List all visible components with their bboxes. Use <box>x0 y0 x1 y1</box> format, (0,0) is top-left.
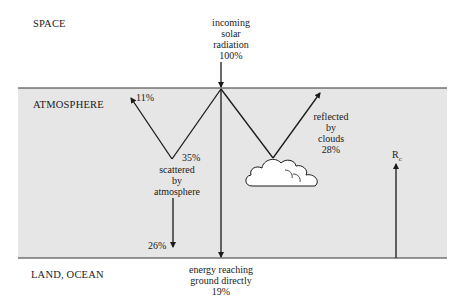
reflected-value: 28% <box>314 144 349 155</box>
reflected-line3: clouds <box>314 133 349 144</box>
atmosphere-band <box>18 88 447 258</box>
scattered-line2: by <box>154 175 200 186</box>
incoming-line3: radiation <box>212 39 250 50</box>
land-ocean-label: LAND, OCEAN <box>31 269 104 280</box>
scattered-down-value: 26% <box>148 240 166 251</box>
reflected-line2: by <box>314 122 349 133</box>
scattered-line3: atmosphere <box>154 186 200 197</box>
reradiated-symbol: R <box>392 149 399 160</box>
scattered-label: scattered by atmosphere <box>154 164 200 197</box>
incoming-line1: incoming <box>212 17 250 28</box>
direct-line2: ground directly <box>189 275 253 286</box>
reflected-label: reflected by clouds 28% <box>314 111 349 155</box>
direct-line1: energy reaching <box>189 264 253 275</box>
incoming-value: 100% <box>212 50 250 61</box>
atmosphere-label: ATMOSPHERE <box>33 99 104 110</box>
direct-label: energy reaching ground directly 19% <box>189 264 253 297</box>
reradiated-label: Rc <box>392 149 402 165</box>
scattered-up-value: 11% <box>136 92 154 103</box>
incoming-line2: solar <box>212 28 250 39</box>
direct-value: 19% <box>189 286 253 297</box>
space-label: SPACE <box>33 18 66 29</box>
scattered-value: 35% <box>182 152 200 163</box>
reradiated-subscript: c <box>399 155 402 163</box>
scattered-line1: scattered <box>154 164 200 175</box>
reflected-line1: reflected <box>314 111 349 122</box>
incoming-label: incoming solar radiation 100% <box>212 17 250 61</box>
